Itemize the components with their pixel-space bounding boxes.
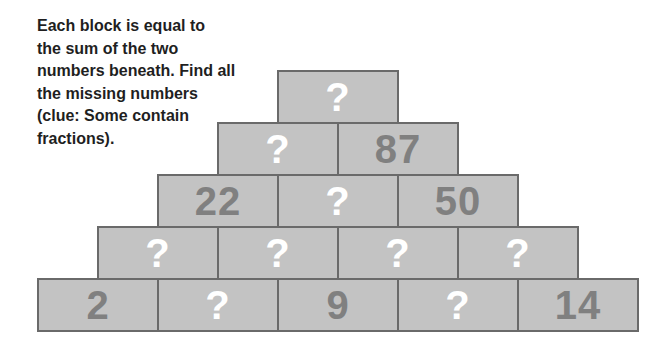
pyramid-block: 2 (37, 278, 159, 332)
block-value: 14 (555, 283, 602, 328)
pyramid-block: 14 (517, 278, 639, 332)
block-value: 87 (375, 127, 422, 172)
pyramid-block: ? (157, 278, 279, 332)
pyramid-block: 22 (157, 174, 279, 228)
missing-value: ? (445, 283, 470, 328)
missing-value: ? (325, 179, 350, 224)
pyramid-block: 50 (397, 174, 519, 228)
pyramid-block: ? (277, 174, 399, 228)
pyramid-block: 87 (337, 122, 459, 176)
missing-value: ? (265, 127, 290, 172)
pyramid-block: ? (217, 226, 339, 280)
missing-value: ? (265, 231, 290, 276)
block-value: 50 (435, 179, 482, 224)
pyramid-block: ? (277, 70, 399, 124)
pyramid-block: ? (397, 278, 519, 332)
pyramid-block: ? (217, 122, 339, 176)
pyramid-block: ? (457, 226, 579, 280)
pyramid-block: ? (97, 226, 219, 280)
missing-value: ? (385, 231, 410, 276)
missing-value: ? (205, 283, 230, 328)
block-value: 2 (86, 283, 109, 328)
pyramid-block: 9 (277, 278, 399, 332)
missing-value: ? (505, 231, 530, 276)
pyramid-block: ? (337, 226, 459, 280)
missing-value: ? (325, 75, 350, 120)
block-value: 9 (326, 283, 349, 328)
missing-value: ? (145, 231, 170, 276)
block-value: 22 (195, 179, 242, 224)
